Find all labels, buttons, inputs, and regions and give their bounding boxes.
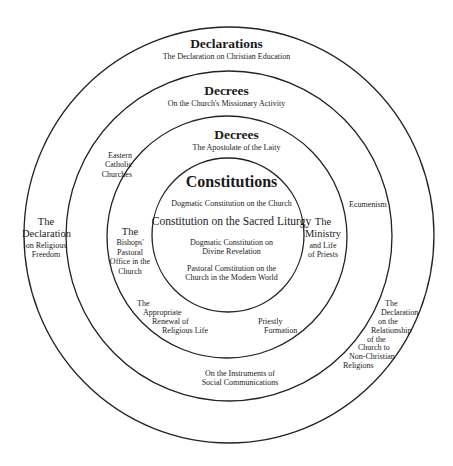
label-line: Catholic [88,160,132,169]
constitutions-title: Constitutions [0,173,453,192]
label-line: Dogmatic Constitution on [0,238,453,247]
decrees-outer-title: Decrees [0,83,453,99]
constitution-church: Dogmatic Constitution on the Church [0,199,453,208]
decree-missionary-activity: On the Church's Missionary Activity [0,99,453,108]
label-line: Divine Revelation [0,247,453,256]
decree-apostolate-laity: The Apostolate of the Laity [0,143,453,152]
constitution-divine-revelation: Dogmatic Constitution on Divine Revelati… [0,238,453,257]
declaration-christian-education: The Declaration on Christian Education [0,52,453,61]
decree-social-communications: On the Instruments of Social Communicati… [190,369,290,388]
constitution-modern-world: Pastoral Constitution on the Church in t… [0,264,453,283]
label-line: Religious Life [162,326,208,335]
label-line: Religions [343,361,374,370]
label-line: Social Communications [190,378,290,387]
decrees-inner-title: Decrees [0,127,453,143]
label-line: On the Instruments of [190,369,290,378]
label-line: Pastoral Constitution on the [0,264,453,273]
declarations-title: Declarations [0,36,453,52]
constitution-sacred-liturgy: Constitution on the Sacred Liturgy [0,215,453,229]
label-line: Church in the Modern World [0,273,453,282]
label-line: Formation [264,326,297,335]
